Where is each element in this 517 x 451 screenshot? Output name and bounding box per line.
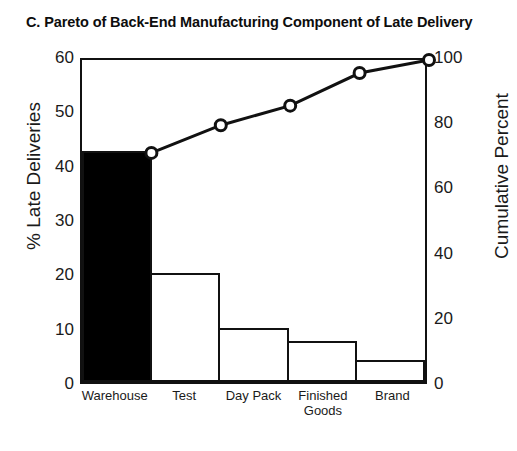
y-left-tick-10: 10 xyxy=(34,320,74,340)
x-label-warehouse: Warehouse xyxy=(80,388,149,418)
y-left-tick-40: 40 xyxy=(34,157,74,177)
x-label-day-pack: Day Pack xyxy=(219,388,288,418)
bar-warehouse xyxy=(82,151,152,382)
y-right-tick-100: 100 xyxy=(434,48,480,68)
y-left-tick-20: 20 xyxy=(34,265,74,285)
y-left-tick-60: 60 xyxy=(34,48,74,68)
bar-series xyxy=(82,60,425,382)
y-left-tick-30: 30 xyxy=(34,211,74,231)
x-label-finished-goods: Finished Goods xyxy=(288,388,357,418)
x-label-test: Test xyxy=(149,388,218,418)
x-axis-category-labels: WarehouseTestDay PackFinished GoodsBrand xyxy=(80,388,427,418)
y-left-tick-0: 0 xyxy=(34,374,74,394)
x-label-brand: Brand xyxy=(358,388,427,418)
y-axis-right-title: Cumulative Percent xyxy=(491,46,513,306)
y-right-tick-20: 20 xyxy=(434,309,480,329)
bar-day-pack xyxy=(218,328,288,382)
plot-area xyxy=(80,58,427,384)
cumulative-marker-4 xyxy=(424,55,435,66)
pareto-chart-figure: C. Pareto of Back-End Manufacturing Comp… xyxy=(0,0,517,451)
y-axis-right-ticks: 020406080100 xyxy=(434,58,482,384)
bar-brand xyxy=(355,360,425,382)
bar-test xyxy=(150,273,220,382)
bar-finished-goods xyxy=(287,341,357,382)
y-left-tick-50: 50 xyxy=(34,102,74,122)
y-axis-left-ticks: 0102030405060 xyxy=(28,58,74,384)
y-right-tick-60: 60 xyxy=(434,178,480,198)
y-right-tick-0: 0 xyxy=(434,374,480,394)
chart-title: C. Pareto of Back-End Manufacturing Comp… xyxy=(26,14,473,30)
y-right-tick-40: 40 xyxy=(434,244,480,264)
y-right-tick-80: 80 xyxy=(434,113,480,133)
